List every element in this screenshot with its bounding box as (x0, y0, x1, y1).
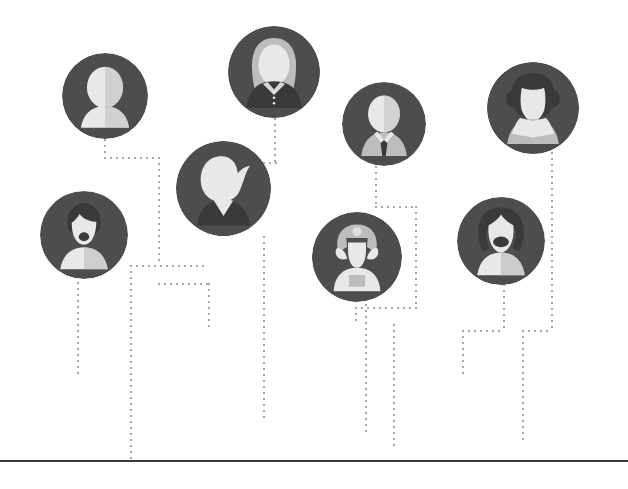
connector-line (274, 118, 276, 162)
user-beard-icon (40, 191, 128, 279)
connector-line (522, 330, 552, 332)
avatar-node-6[interactable] (487, 62, 579, 154)
connector-line (393, 324, 395, 446)
connector-line (462, 330, 504, 332)
connector-line (77, 282, 79, 378)
connector-line (365, 298, 367, 435)
connector-line (263, 236, 265, 422)
connector-line (355, 307, 357, 324)
user-quiff-icon (176, 141, 271, 236)
connector-line (130, 265, 132, 462)
user-silhouette-icon (62, 53, 148, 139)
connector-line (104, 157, 160, 159)
connector-line (375, 206, 417, 208)
avatar-node-3[interactable] (40, 191, 128, 279)
avatar-node-7[interactable] (312, 212, 402, 302)
connector-line (503, 284, 505, 330)
connector-line (462, 330, 464, 374)
connector-line (130, 265, 208, 267)
avatar-node-8[interactable] (457, 197, 545, 285)
connector-line (375, 166, 377, 208)
avatar-node-1[interactable] (62, 53, 148, 139)
user-pigtails-icon (312, 212, 402, 302)
avatar-node-5[interactable] (342, 82, 426, 166)
avatar-node-2[interactable] (228, 26, 320, 118)
user-tie-icon (342, 82, 426, 166)
connector-line (522, 330, 524, 440)
user-curly-hair-icon (487, 62, 579, 154)
user-bob-hair-icon (457, 197, 545, 285)
connector-line (158, 283, 210, 285)
connector-line (208, 283, 210, 331)
connector-line (263, 162, 279, 164)
connector-line (158, 157, 160, 265)
connector-line (551, 152, 553, 330)
connector-line (415, 206, 417, 307)
ground-baseline (0, 460, 628, 462)
connector-line (104, 139, 106, 157)
avatar-node-4[interactable] (176, 141, 271, 236)
user-long-hair-icon (228, 26, 320, 118)
diagram-canvas (0, 0, 628, 489)
